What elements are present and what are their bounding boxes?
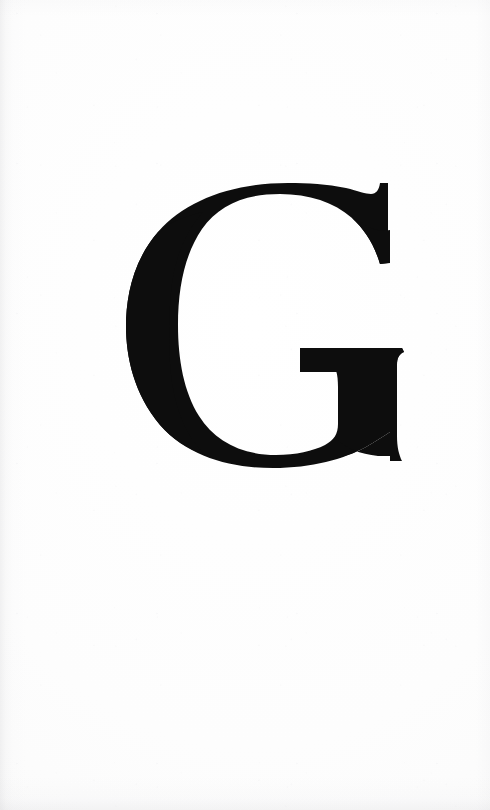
capital-g-glyph xyxy=(0,0,490,810)
scanned-page: G xyxy=(0,0,490,810)
glyph-stage: G xyxy=(0,0,490,810)
g-crossbar-serif xyxy=(300,348,404,372)
